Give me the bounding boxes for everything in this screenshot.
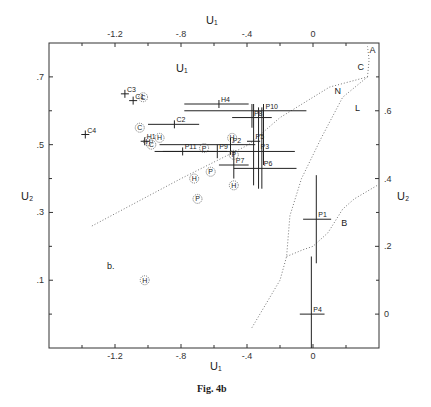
y-tick-label-right: 0	[384, 309, 389, 319]
point-p1: P1	[303, 175, 331, 263]
y-axis-title-right: U₂	[397, 190, 409, 202]
point-label: P1	[318, 211, 327, 218]
region-label-n: N	[335, 86, 342, 96]
point-label: P6	[264, 160, 273, 167]
circled-point-c: C	[135, 123, 144, 132]
x-axis-title-top: U₁	[176, 62, 188, 74]
point-h4: H4	[184, 96, 248, 108]
point-c4: C4	[81, 127, 96, 139]
point-label: P7	[236, 157, 245, 164]
y-tick-label-left: .7	[36, 72, 44, 82]
point-label: P10	[266, 103, 279, 110]
circle-symbol: H	[230, 134, 235, 141]
y-tick-label-right: .4	[384, 174, 392, 184]
region-labels: ACNLB	[335, 45, 376, 228]
point-p11: P11	[155, 143, 216, 155]
x-tick-label-top: 0	[310, 29, 315, 39]
circle-symbol: C	[137, 124, 142, 131]
circle-symbol: H	[145, 138, 150, 145]
circled-point-p: P	[206, 167, 215, 176]
x-axis-title-bottom: U₁	[210, 360, 222, 372]
x-tick-label-top: -.4	[242, 29, 253, 39]
circle-symbol: P	[202, 145, 207, 152]
x-tick-label-bottom: 0	[310, 351, 315, 361]
y-tick-label-left: .5	[36, 140, 44, 150]
point-label: P5	[256, 133, 265, 140]
circled-point-h: H	[155, 133, 164, 142]
circle-symbol: H	[142, 277, 147, 284]
region-label-c: C	[358, 62, 365, 72]
x-tick-label-top: -.8	[176, 29, 187, 39]
boundary-right-curve	[252, 77, 368, 328]
point-p2: P2	[160, 137, 256, 155]
region-label-b: B	[341, 218, 347, 228]
circle-symbol: H	[157, 134, 162, 141]
circle-symbol: H	[231, 182, 236, 189]
region-label-a: A	[369, 45, 375, 55]
x-tick-label-bottom: -.4	[242, 351, 253, 361]
plot-frame	[49, 43, 379, 348]
point-label: P9	[219, 143, 228, 150]
region-label-l: L	[355, 103, 360, 113]
circle-symbol: P	[195, 195, 200, 202]
point-label: H4	[221, 96, 230, 103]
circled-point-c: C	[139, 93, 148, 102]
chart-canvas: -1.2-.8-.40-1.2-.8-.40.7.5.3.1.6.4.20 C3…	[0, 0, 431, 407]
point-c3: C3	[121, 86, 136, 98]
circle-symbol: C	[141, 94, 146, 101]
y-tick-label-left: .1	[36, 275, 44, 285]
x-tick-label-bottom: -1.2	[107, 351, 123, 361]
y-axis-title-left: U₂	[21, 190, 33, 202]
circled-point-h: H	[140, 276, 149, 285]
circled-markers: CCHCHPHPPHHPH	[135, 93, 238, 285]
point-c2: C2	[148, 116, 199, 128]
figure-caption: Fig. 4b	[197, 383, 227, 394]
circle-symbol: H	[192, 175, 197, 182]
circle-symbol: P	[208, 168, 213, 175]
y-tick-label-right: .6	[384, 106, 392, 116]
circled-point-h: H	[229, 181, 238, 190]
circle-symbol: P	[231, 151, 236, 158]
point-label: C4	[87, 127, 96, 134]
cross-markers: C3C1C4C2H1P11H4P10P8P2P5P9P3P7P6P1P4	[81, 86, 331, 348]
panel-label: b.	[107, 261, 115, 271]
point-p10: P10	[184, 103, 306, 165]
x-axis-title-top-outer: U₁	[206, 14, 218, 26]
y-tick-label-left: .3	[36, 207, 44, 217]
axes-frame: -1.2-.8-.40-1.2-.8-.40.7.5.3.1.6.4.20	[36, 29, 391, 361]
circled-point-h: H	[190, 174, 199, 183]
point-label: C2	[176, 116, 185, 123]
circled-point-p: P	[193, 194, 202, 203]
x-tick-label-top: -1.2	[107, 29, 123, 39]
x-tick-label-bottom: -.8	[176, 351, 187, 361]
point-p4: P4	[300, 257, 325, 349]
point-label: P4	[313, 306, 322, 313]
y-tick-label-right: .2	[384, 241, 392, 251]
boundary-lower-B	[287, 185, 378, 256]
